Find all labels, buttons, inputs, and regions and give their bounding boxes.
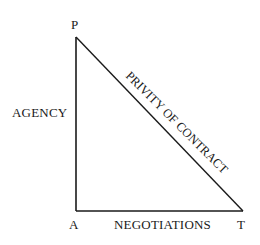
edge-label-agency: AGENCY	[12, 106, 67, 119]
edge-label-negotiations: NEGOTIATIONS	[114, 218, 211, 231]
edge-privity-of-contract	[76, 37, 243, 211]
vertex-label-t: T	[237, 218, 245, 231]
vertex-label-a: A	[69, 218, 79, 231]
triangle-diagram	[0, 0, 260, 245]
vertex-label-p: P	[71, 18, 78, 31]
